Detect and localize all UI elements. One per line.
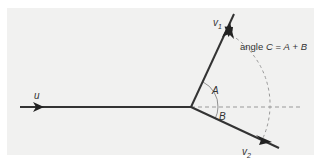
vector-diagram: u v1 v2 A B angle C = A + B (0, 0, 319, 163)
label-angle-b: B (219, 111, 226, 122)
label-v1: v1 (213, 17, 222, 30)
label-u: u (34, 90, 40, 101)
label-angle-c: angle C = A + B (240, 41, 308, 52)
angle-b-arc (215, 107, 218, 119)
label-angle-a: A (211, 85, 219, 96)
label-v2: v2 (242, 146, 251, 159)
